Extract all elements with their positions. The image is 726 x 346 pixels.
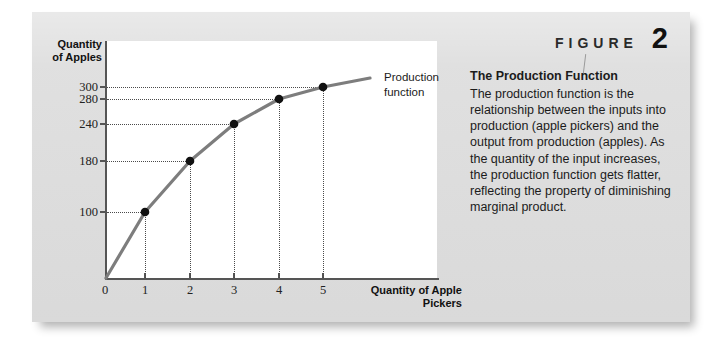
data-point-2 bbox=[186, 157, 195, 166]
data-point-3 bbox=[230, 120, 239, 129]
x-tick-label-3: 3 bbox=[223, 283, 245, 298]
data-point-4 bbox=[275, 95, 284, 104]
x-tick-label-1: 1 bbox=[134, 283, 156, 298]
data-point-5 bbox=[319, 83, 328, 92]
x-tick-label-2: 2 bbox=[179, 283, 201, 298]
y-tick-label-180: 180 bbox=[52, 154, 98, 169]
y-tick-label-100: 100 bbox=[52, 205, 98, 220]
production-function-chart: Quantity of Apples Quantity of Apple Pic… bbox=[32, 12, 690, 322]
x-axis-title: Quantity of Apple Pickers bbox=[350, 284, 462, 311]
x-tick-label-4: 4 bbox=[268, 283, 290, 298]
y-axis-title: Quantity of Apples bbox=[44, 38, 102, 65]
curve-path bbox=[106, 78, 370, 278]
figure-panel: FIGURE 2 The Production Function The pro… bbox=[32, 12, 690, 322]
y-tick-label-240: 240 bbox=[52, 117, 98, 132]
curve-label: Production function bbox=[384, 70, 462, 99]
y-tick-label-280: 280 bbox=[52, 92, 98, 107]
data-point-1 bbox=[141, 208, 150, 217]
x-tick-label-0: 0 bbox=[94, 283, 116, 298]
x-tick-label-5: 5 bbox=[312, 283, 334, 298]
